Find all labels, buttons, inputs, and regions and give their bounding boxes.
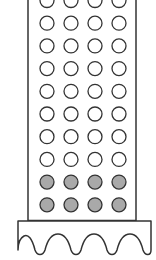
empty-circle bbox=[88, 84, 102, 98]
filled-circle bbox=[64, 175, 78, 189]
filled-circle bbox=[64, 198, 78, 212]
empty-circle bbox=[112, 84, 126, 98]
empty-circle bbox=[64, 0, 78, 8]
wavy-base bbox=[18, 221, 151, 255]
empty-circle bbox=[88, 152, 102, 166]
empty-circle bbox=[112, 39, 126, 53]
filled-circle bbox=[88, 175, 102, 189]
empty-circle bbox=[64, 130, 78, 144]
filled-circle bbox=[88, 198, 102, 212]
filled-circle bbox=[112, 175, 126, 189]
empty-circle bbox=[112, 130, 126, 144]
empty-circle bbox=[112, 0, 126, 8]
empty-circle bbox=[64, 107, 78, 121]
empty-circle bbox=[112, 152, 126, 166]
empty-circle bbox=[88, 16, 102, 30]
empty-circle bbox=[88, 62, 102, 76]
empty-circle bbox=[40, 84, 54, 98]
empty-circle bbox=[40, 39, 54, 53]
empty-circle bbox=[88, 39, 102, 53]
empty-circle bbox=[112, 16, 126, 30]
empty-circle bbox=[64, 84, 78, 98]
empty-circle bbox=[88, 0, 102, 8]
filled-circle bbox=[40, 198, 54, 212]
empty-circle bbox=[112, 62, 126, 76]
empty-circle bbox=[40, 152, 54, 166]
empty-circle bbox=[64, 39, 78, 53]
empty-circle bbox=[40, 0, 54, 8]
empty-circle bbox=[40, 62, 54, 76]
empty-circle bbox=[40, 16, 54, 30]
diagram-canvas bbox=[0, 0, 156, 260]
empty-circle bbox=[40, 107, 54, 121]
empty-circle bbox=[88, 130, 102, 144]
empty-circle bbox=[64, 16, 78, 30]
filled-circle bbox=[112, 198, 126, 212]
filled-circle bbox=[40, 175, 54, 189]
empty-circle bbox=[112, 107, 126, 121]
empty-circle bbox=[64, 62, 78, 76]
circle-grid bbox=[40, 0, 126, 212]
empty-circle bbox=[88, 107, 102, 121]
empty-circle bbox=[64, 152, 78, 166]
empty-circle bbox=[40, 130, 54, 144]
